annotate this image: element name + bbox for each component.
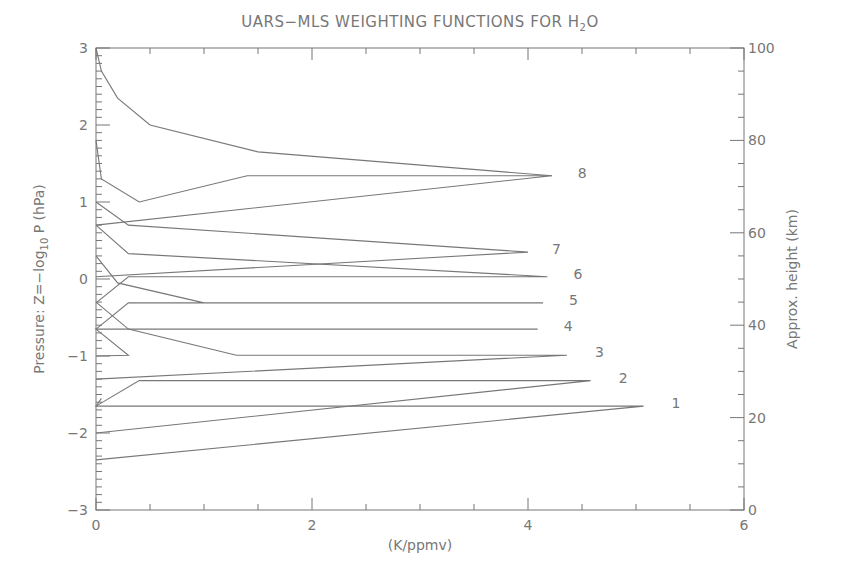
peak-label-4: 4 <box>564 318 573 334</box>
y-axis-ticks: 3210−1−2−3 <box>67 40 110 518</box>
y-tick-label: 0 <box>79 271 88 287</box>
weighting-function-4 <box>96 329 538 356</box>
peak-label-2: 2 <box>619 370 628 386</box>
chart-title: UARS−MLS WEIGHTING FUNCTIONS FOR H2O <box>241 13 598 33</box>
x-tick-label: 0 <box>92 517 101 533</box>
y2-tick-label: 60 <box>748 225 766 241</box>
x-tick-label: 4 <box>524 517 533 533</box>
y2-tick-label: 0 <box>748 502 757 518</box>
weighting-function-8 <box>96 140 552 225</box>
peak-label-7: 7 <box>552 241 561 257</box>
x-tick-label: 2 <box>308 517 317 533</box>
peak-label-1: 1 <box>672 395 681 411</box>
weighting-function-5 <box>96 256 543 329</box>
x-axis-ticks: 0246 <box>92 48 749 533</box>
y2-tick-label: 40 <box>748 317 766 333</box>
peak-label-5: 5 <box>569 292 578 308</box>
y2-tick-label: 80 <box>748 132 766 148</box>
weighting-function-2 <box>96 381 591 433</box>
peak-labels: 12345678 <box>552 165 680 411</box>
weighting-function-lines <box>96 48 644 460</box>
x-axis-title: (K/ppmv) <box>388 537 453 553</box>
weighting-function-top <box>96 48 552 176</box>
weighting-function-3 <box>96 302 567 379</box>
y-axis-title: Pressure: Z=−log10 P (hPa) <box>31 184 50 374</box>
y-tick-label: −3 <box>67 502 88 518</box>
y2-tick-label: 100 <box>748 40 775 56</box>
y-tick-label: 3 <box>79 40 88 56</box>
weighting-function-1 <box>96 398 644 460</box>
peak-label-6: 6 <box>573 266 582 282</box>
weighting-function-chart: UARS−MLS WEIGHTING FUNCTIONS FOR H2O 024… <box>0 0 843 588</box>
y2-axis-title: Approx. height (km) <box>784 209 800 349</box>
y2-axis-ticks: 100806040200 <box>730 40 775 518</box>
weighting-function-7 <box>96 202 528 277</box>
y-tick-label: 1 <box>79 194 88 210</box>
y-tick-label: −1 <box>67 348 88 364</box>
peak-label-8: 8 <box>578 165 587 181</box>
y-tick-label: −2 <box>67 425 88 441</box>
x-tick-label: 6 <box>740 517 749 533</box>
peak-label-3: 3 <box>595 344 604 360</box>
plot-frame <box>96 48 744 510</box>
y2-tick-label: 20 <box>748 410 766 426</box>
y-tick-label: 2 <box>79 117 88 133</box>
